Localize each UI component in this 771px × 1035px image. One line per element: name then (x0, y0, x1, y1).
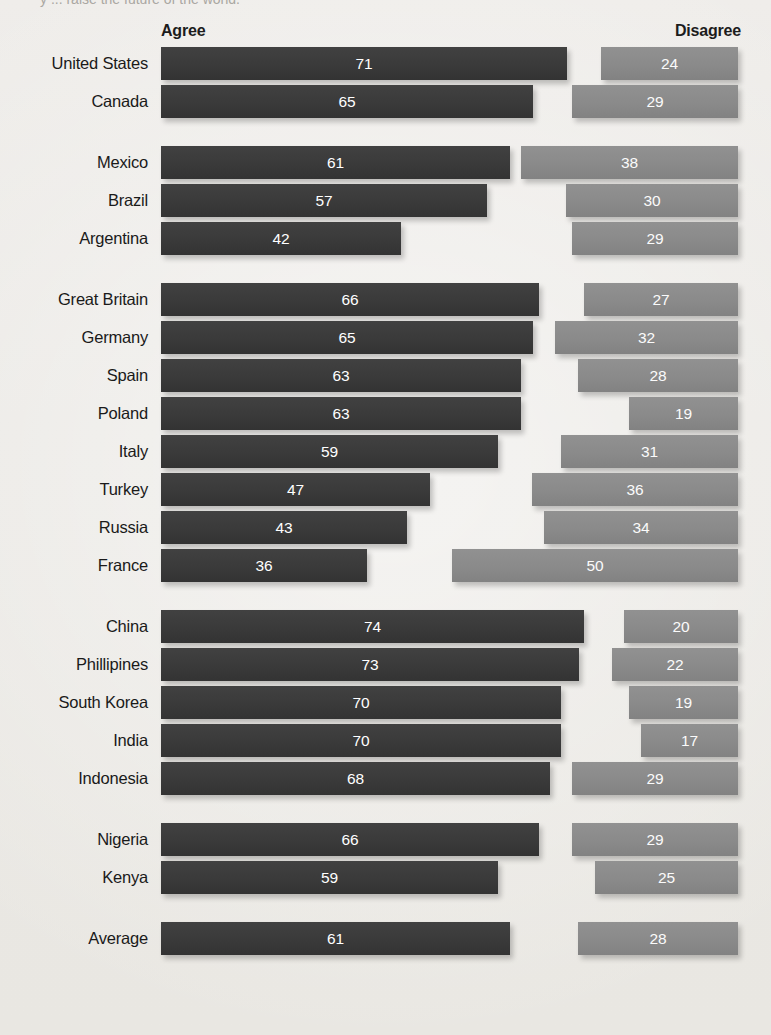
bar-disagree: 20 (624, 610, 738, 643)
bar-value-agree: 59 (321, 443, 338, 460)
chart-row: Italy5931 (0, 435, 771, 468)
bar-disagree: 27 (584, 283, 738, 316)
chart-row: Kenya5925 (0, 861, 771, 894)
bar-agree: 66 (161, 283, 539, 316)
bar-value-agree: 63 (332, 405, 349, 422)
row-category-label: United States (0, 47, 148, 80)
row-category-label: Average (0, 922, 148, 955)
bar-agree: 65 (161, 85, 533, 118)
chart-row: Russia4334 (0, 511, 771, 544)
bar-agree: 61 (161, 922, 510, 955)
chart-row: Mexico6138 (0, 146, 771, 179)
bar-value-agree: 57 (315, 192, 332, 209)
chart-row: Great Britain6627 (0, 283, 771, 316)
bar-value-disagree: 22 (666, 656, 683, 673)
row-category-label: Canada (0, 85, 148, 118)
bar-value-disagree: 28 (649, 367, 666, 384)
bar-value-agree: 68 (347, 770, 364, 787)
bar-value-disagree: 29 (646, 831, 663, 848)
bar-value-agree: 36 (255, 557, 272, 574)
row-category-label: Poland (0, 397, 148, 430)
bar-value-agree: 70 (352, 694, 369, 711)
bar-value-disagree: 36 (626, 481, 643, 498)
bar-value-disagree: 50 (586, 557, 603, 574)
bar-disagree: 28 (578, 359, 738, 392)
bar-value-agree: 66 (341, 831, 358, 848)
row-category-label: Russia (0, 511, 148, 544)
bar-disagree: 22 (612, 648, 738, 681)
bar-agree: 70 (161, 724, 561, 757)
row-category-label: Kenya (0, 861, 148, 894)
bar-value-agree: 63 (332, 367, 349, 384)
bar-disagree: 28 (578, 922, 738, 955)
chart-row: United States7124 (0, 47, 771, 80)
row-category-label: Spain (0, 359, 148, 392)
chart-row: Canada6529 (0, 85, 771, 118)
bar-value-agree: 66 (341, 291, 358, 308)
chart-row: Indonesia6829 (0, 762, 771, 795)
bar-agree: 43 (161, 511, 407, 544)
bar-value-agree: 73 (361, 656, 378, 673)
bar-value-disagree: 30 (643, 192, 660, 209)
bar-value-disagree: 34 (632, 519, 649, 536)
chart-row: Brazil5730 (0, 184, 771, 217)
bar-disagree: 24 (601, 47, 738, 80)
chart-row: South Korea7019 (0, 686, 771, 719)
bar-value-disagree: 27 (652, 291, 669, 308)
chart-row: Poland6319 (0, 397, 771, 430)
bar-value-disagree: 29 (646, 770, 663, 787)
chart-row: Average6128 (0, 922, 771, 955)
bar-disagree: 36 (532, 473, 738, 506)
bar-agree: 71 (161, 47, 567, 80)
chart-row: China7420 (0, 610, 771, 643)
bar-value-disagree: 19 (675, 694, 692, 711)
column-header-disagree: Disagree (0, 22, 741, 40)
bar-disagree: 38 (521, 146, 738, 179)
row-category-label: Great Britain (0, 283, 148, 316)
bar-agree: 63 (161, 397, 521, 430)
bar-agree: 73 (161, 648, 579, 681)
bar-disagree: 29 (572, 762, 738, 795)
bar-disagree: 19 (629, 397, 738, 430)
cropped-chart-title-text: y ... raise the future of the world. (0, 0, 771, 7)
bar-disagree: 19 (629, 686, 738, 719)
bar-value-agree: 61 (327, 154, 344, 171)
chart-row: India7017 (0, 724, 771, 757)
bar-chart: y ... raise the future of the world. Agr… (0, 0, 771, 1035)
bar-value-agree: 65 (338, 329, 355, 346)
bar-value-agree: 74 (364, 618, 381, 635)
chart-row: Turkey4736 (0, 473, 771, 506)
bar-agree: 68 (161, 762, 550, 795)
row-category-label: Mexico (0, 146, 148, 179)
row-category-label: Phillipines (0, 648, 148, 681)
bar-disagree: 34 (544, 511, 738, 544)
chart-row: Germany6532 (0, 321, 771, 354)
row-category-label: Italy (0, 435, 148, 468)
bar-agree: 63 (161, 359, 521, 392)
bar-agree: 47 (161, 473, 430, 506)
bar-value-disagree: 24 (661, 55, 678, 72)
row-category-label: France (0, 549, 148, 582)
bar-agree: 57 (161, 184, 487, 217)
row-category-label: India (0, 724, 148, 757)
bar-agree: 65 (161, 321, 533, 354)
bar-value-agree: 59 (321, 869, 338, 886)
chart-row: Phillipines7322 (0, 648, 771, 681)
bar-agree: 59 (161, 435, 498, 468)
bar-agree: 42 (161, 222, 401, 255)
chart-row: France3650 (0, 549, 771, 582)
bar-disagree: 29 (572, 823, 738, 856)
bar-disagree: 30 (566, 184, 738, 217)
bar-disagree: 25 (595, 861, 738, 894)
bar-disagree: 50 (452, 549, 738, 582)
bar-value-disagree: 31 (641, 443, 658, 460)
cropped-chart-title: y ... raise the future of the world. (0, 0, 771, 9)
row-category-label: Indonesia (0, 762, 148, 795)
bar-value-agree: 43 (275, 519, 292, 536)
chart-row: Spain6328 (0, 359, 771, 392)
row-category-label: Argentina (0, 222, 148, 255)
bar-value-disagree: 38 (621, 154, 638, 171)
row-category-label: Brazil (0, 184, 148, 217)
row-category-label: South Korea (0, 686, 148, 719)
bar-value-disagree: 17 (681, 732, 698, 749)
